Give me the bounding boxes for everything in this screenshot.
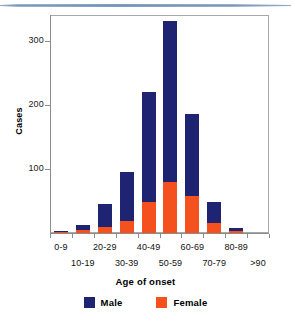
bar-segment-male-60-69 xyxy=(185,114,199,196)
y-tick-label-100: 100 xyxy=(8,164,44,173)
x-tick-label-70-79: 70-79 xyxy=(194,258,234,268)
bar-segment-female-60-69 xyxy=(185,196,199,233)
x-tick-5 xyxy=(160,234,161,238)
bar-segment-female-80-89 xyxy=(229,231,243,233)
x-tick-10 xyxy=(269,234,270,238)
x-tick-label-80-89: 80-89 xyxy=(216,242,256,252)
x-tick-3 xyxy=(116,234,117,238)
bar-segment-male-20-29 xyxy=(98,204,112,226)
legend-label-male: Male xyxy=(101,297,123,308)
x-tick-4 xyxy=(138,234,139,238)
x-tick-7 xyxy=(203,234,204,238)
bar-segment-male-40-49 xyxy=(142,92,156,202)
bar-segment-male-70-79 xyxy=(207,202,221,223)
bar-70-79 xyxy=(207,202,221,233)
legend-item-female[interactable]: Female xyxy=(156,297,207,308)
chart-legend: MaleFemale xyxy=(0,297,291,308)
legend-label-female: Female xyxy=(173,297,207,308)
x-axis-title: Age of onset xyxy=(0,276,291,287)
bar-50-59 xyxy=(163,21,177,233)
x-tick-label-60-69: 60-69 xyxy=(172,242,212,252)
x-tick-8 xyxy=(225,234,226,238)
bar-segment-female-50-59 xyxy=(163,182,177,233)
bar-segment-female-30-39 xyxy=(120,221,134,233)
x-tick-9 xyxy=(247,234,248,238)
bar-20-29 xyxy=(98,204,112,233)
y-axis-tick-labels: 100200300 xyxy=(8,0,44,322)
bar-segment-male-50-59 xyxy=(163,21,177,181)
bar-segment-female-0-9 xyxy=(54,232,68,233)
x-tick-label-50-59: 50-59 xyxy=(150,258,190,268)
bar-segment-male-30-39 xyxy=(120,172,134,221)
x-tick-label-20-29: 20-29 xyxy=(85,242,125,252)
x-tick-2 xyxy=(94,234,95,238)
bar-0-9 xyxy=(54,231,68,233)
bar-10-19 xyxy=(76,225,90,233)
x-tick-label-0-9: 0-9 xyxy=(41,242,81,252)
x-tick-label-30-39: 30-39 xyxy=(107,258,147,268)
x-tick-label->90: >90 xyxy=(238,258,278,268)
bar-series-group xyxy=(50,15,269,233)
legend-swatch-female xyxy=(156,297,167,308)
bar-30-39 xyxy=(120,172,134,233)
bar-segment-female-40-49 xyxy=(142,202,156,233)
x-tick-1 xyxy=(72,234,73,238)
stacked-bar-chart: 100200300 Cases 0-910-1920-2930-3940-495… xyxy=(0,0,291,322)
x-tick-label-10-19: 10-19 xyxy=(63,258,103,268)
x-tick-label-40-49: 40-49 xyxy=(129,242,169,252)
bar-segment-female-10-19 xyxy=(76,230,90,233)
legend-swatch-male xyxy=(84,297,95,308)
bar-segment-female-70-79 xyxy=(207,223,221,233)
y-tick-label-300: 300 xyxy=(8,36,44,45)
legend-item-male[interactable]: Male xyxy=(84,297,123,308)
bar-40-49 xyxy=(142,92,156,233)
y-axis-title: Cases xyxy=(14,91,24,151)
x-tick-6 xyxy=(181,234,182,238)
bar-60-69 xyxy=(185,114,199,233)
x-tick-0 xyxy=(50,234,51,238)
bar-80-89 xyxy=(229,228,243,233)
bar-segment-female-20-29 xyxy=(98,227,112,233)
